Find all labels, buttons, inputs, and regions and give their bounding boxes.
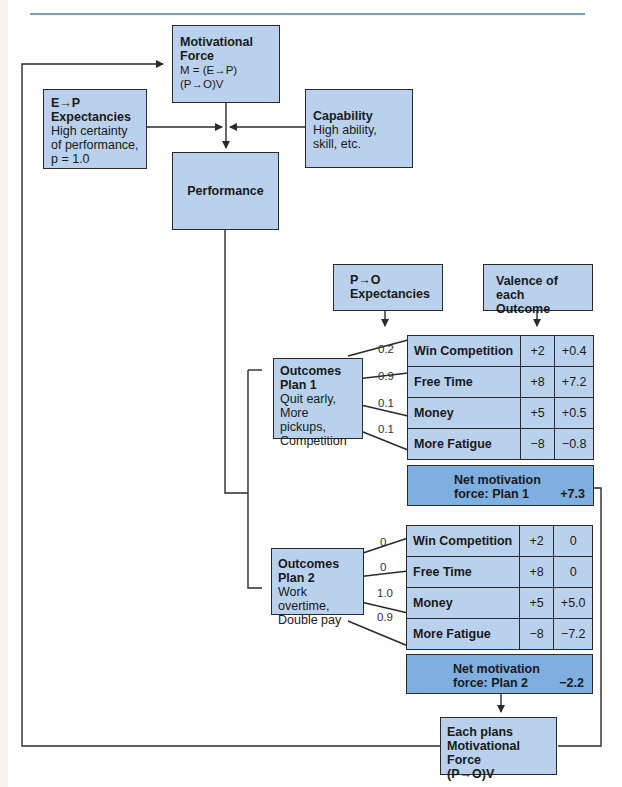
product-value: −7.2 (554, 619, 593, 650)
ep-expectancies-box: E→P Expectancies High certainty of perfo… (43, 89, 147, 169)
plan2-prob-money: 1.0 (377, 587, 393, 599)
product-value: −0.8 (555, 429, 594, 460)
plan1-prob-win: 0.2 (378, 343, 394, 355)
valence-value: +8 (520, 367, 555, 398)
valence-value: +5 (519, 588, 554, 619)
each-plan-force-box: Each plans Motivational Force (P→O)V (440, 717, 557, 775)
table-row: Win Competition +2 0 (407, 526, 593, 557)
plan2-prob-freetime: 0 (380, 561, 386, 573)
plan1-prob-money: 0.1 (378, 397, 394, 409)
plan1-body-line2: More pickups, (280, 406, 356, 434)
outcome-name: Win Competition (407, 526, 520, 557)
product-value: +0.5 (555, 398, 594, 429)
plan1-net-force: Net motivation force: Plan 1 +7.3 (407, 465, 594, 506)
valence-title-line1: Valence of (496, 274, 580, 288)
plan2-outcome-table: Win Competition +2 0 Free Time +8 0 Mone… (406, 525, 593, 650)
ep-title-line1: E→P (51, 96, 139, 110)
plan2-net-force: Net motivation force: Plan 2 −2.2 (406, 654, 593, 694)
valence-value: +2 (520, 336, 555, 367)
plan1-net-value: +7.3 (560, 487, 585, 501)
valence-value: +8 (519, 557, 554, 588)
outcome-name: Money (408, 398, 521, 429)
ep-body-line1: High certainty (51, 124, 139, 138)
table-row: Free Time +8 0 (407, 557, 593, 588)
plan1-title-line1: Outcomes (280, 364, 356, 378)
valence-value: −8 (520, 429, 555, 460)
plan2-net-label-line1: Net motivation (453, 662, 540, 676)
ep-body-line3: p = 1.0 (51, 152, 139, 166)
product-value: +7.2 (555, 367, 594, 398)
plan2-prob-win: 0 (380, 536, 386, 548)
plan1-prob-fatigue: 0.1 (378, 423, 394, 435)
motivational-force-formula: M = (E→P)(P→O)V (180, 63, 272, 91)
valence-value: +2 (519, 526, 554, 557)
plan1-outcome-table: Win Competition +2 +0.4 Free Time +8 +7.… (407, 335, 594, 460)
plan1-prob-freetime: 0.9 (378, 370, 394, 382)
plan2-body-line2: Double pay (278, 613, 357, 627)
plan2-prob-fatigue: 0.9 (377, 611, 393, 623)
outcome-name: Free Time (408, 367, 521, 398)
plan2-net-label-line2: force: Plan 2 (453, 676, 540, 690)
table-row: Money +5 +0.5 (408, 398, 594, 429)
motivational-force-title: Motivational Force (180, 35, 272, 63)
outcome-name: Money (407, 588, 520, 619)
plan1-body-line1: Quit early, (280, 392, 356, 406)
plan2-title-line1: Outcomes (278, 557, 357, 571)
ep-title-line2: Expectancies (51, 110, 139, 124)
plan1-title-line2: Plan 1 (280, 378, 356, 392)
capability-body-line1: High ability, (313, 123, 405, 137)
each-plan-line2: Motivational Force (447, 739, 550, 767)
valence-value: +5 (520, 398, 555, 429)
performance-title: Performance (187, 184, 263, 198)
performance-box: Performance (172, 152, 279, 230)
plan1-net-label-line1: Net motivation (454, 473, 541, 487)
plan1-net-label-line2: force: Plan 1 (454, 487, 541, 501)
capability-title: Capability (313, 109, 405, 123)
product-value: 0 (554, 526, 593, 557)
outcome-name: Win Competition (408, 336, 521, 367)
plan2-body-line1: Work overtime, (278, 585, 357, 613)
capability-body-line2: skill, etc. (313, 137, 405, 151)
table-row: Free Time +8 +7.2 (408, 367, 594, 398)
plan1-outcomes-box: Outcomes Plan 1 Quit early, More pickups… (273, 358, 363, 439)
outcome-name: More Fatigue (408, 429, 521, 460)
plan2-title-line2: Plan 2 (278, 571, 357, 585)
each-plan-line1: Each plans (447, 725, 550, 739)
product-value: 0 (554, 557, 593, 588)
table-row: Win Competition +2 +0.4 (408, 336, 594, 367)
table-row: Money +5 +5.0 (407, 588, 593, 619)
po-title-line1: P→O (350, 273, 426, 287)
valence-box: Valence of each Outcome (483, 264, 593, 311)
motivational-force-box: Motivational Force M = (E→P)(P→O)V (172, 25, 280, 103)
table-row: More Fatigue −8 −0.8 (408, 429, 594, 460)
capability-box: Capability High ability, skill, etc. (305, 89, 413, 168)
each-plan-line3: (P→O)V (447, 767, 550, 781)
plan1-body-line3: Competition (280, 434, 356, 448)
product-value: +5.0 (554, 588, 593, 619)
po-expectancies-box: P→O Expectancies (333, 264, 443, 311)
plan2-net-value: −2.2 (559, 676, 584, 690)
outcome-name: More Fatigue (407, 619, 520, 650)
product-value: +0.4 (555, 336, 594, 367)
plan2-outcomes-box: Outcomes Plan 2 Work overtime, Double pa… (271, 548, 364, 615)
po-title-line2: Expectancies (350, 287, 426, 301)
ep-body-line2: of performance, (51, 138, 139, 152)
outcome-name: Free Time (407, 557, 520, 588)
valence-title-line2: each Outcome (496, 288, 580, 316)
valence-value: −8 (519, 619, 554, 650)
table-row: More Fatigue −8 −7.2 (407, 619, 593, 650)
